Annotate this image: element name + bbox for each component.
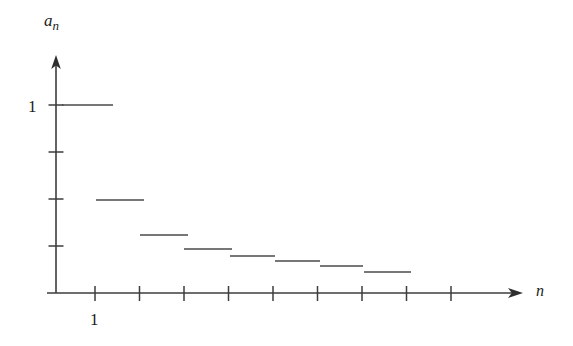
figure-canvas: an n 1 1 (0, 0, 573, 346)
y-axis-label: an (44, 12, 59, 32)
y-axis-group (51, 55, 61, 293)
harmonic-sequence-plot (0, 0, 573, 346)
x-axis-tick-label-1: 1 (90, 311, 99, 328)
step-segments-group (62, 105, 411, 272)
x-axis-label: n (536, 283, 544, 299)
y-axis-tick-label-1: 1 (28, 98, 37, 115)
y-axis-label-base: a (44, 11, 53, 30)
y-axis-label-subscript: n (53, 18, 60, 33)
